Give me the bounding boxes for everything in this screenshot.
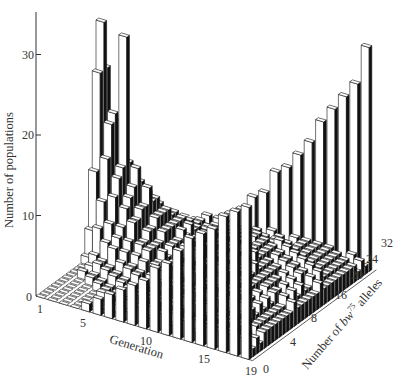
x-tick-5: 5 [80,316,86,331]
x-tick-15: 15 [198,352,210,367]
y-tick-20: 20 [22,128,34,143]
z-tick-0: 0 [263,362,269,377]
y-tick-0: 0 [26,290,32,305]
z-tick-24: 24 [366,252,378,267]
z-tick-4: 4 [290,335,296,350]
z-tick-8: 8 [311,311,317,326]
y-tick-30: 30 [22,48,34,63]
z-tick-16: 16 [335,288,347,303]
z-tick-20: 20 [351,268,363,283]
z-tick-32: 32 [381,236,393,251]
x-tick-1: 1 [37,302,43,317]
y-tick-10: 10 [22,209,34,224]
x-tick-19: 19 [245,364,257,379]
y-axis-label: Number of populations [2,112,17,228]
